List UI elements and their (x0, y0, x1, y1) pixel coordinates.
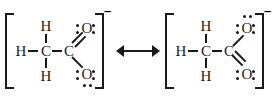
bond-hydrogen-top-carbon (205, 34, 207, 43)
bracket-open-left (5, 13, 14, 89)
lone-pair-dot-o-bottom-left-lower (76, 77, 79, 80)
atom-carbon-methyl: C (199, 44, 213, 59)
lone-pair-dot-o-top-above-left (243, 15, 246, 18)
atom-hydrogen-left: H (174, 44, 188, 59)
lone-pair-dot-o-bottom-left-upper (236, 70, 239, 73)
negative-charge-right: – (264, 6, 271, 16)
lone-pair-dot-o-bottom-right-upper (92, 70, 95, 73)
lone-pair-dot-o-top-right-lower (92, 31, 95, 34)
lone-pair-dot-o-bottom-left-lower (236, 77, 239, 80)
lone-pair-dot-o-top-left-upper (236, 24, 239, 27)
lone-pair-dot-o-top-above-right (249, 15, 252, 18)
lone-pair-dot-o-bottom-right-lower (252, 77, 255, 80)
bond-carbon-oxygen-top (232, 35, 244, 47)
lone-pair-dot-o-bottom-right-lower (92, 77, 95, 80)
bond-hydrogen-left-carbon (188, 50, 198, 52)
resonance-arrow-icon: ↔ (116, 44, 160, 58)
resonance-diagram: – H H H C C O O (0, 0, 276, 102)
bond-hydrogen-top-carbon (45, 34, 47, 43)
lone-pair-dot-o-bottom-under-left (83, 84, 86, 87)
bond-hydrogen-bottom-carbon (205, 58, 207, 68)
bond-carbon-carbon (212, 50, 222, 52)
lone-pair-dot-o-bottom-left-upper (76, 70, 79, 73)
resonance-structure-left: – H H H C C O O (2, 0, 112, 102)
atom-hydrogen-left: H (14, 44, 28, 59)
arrow-shaft (122, 50, 154, 52)
atom-hydrogen-bottom: H (199, 69, 213, 84)
atom-hydrogen-top: H (39, 19, 53, 34)
lone-pair-dot-o-bottom-under-right (89, 84, 92, 87)
atom-hydrogen-top: H (199, 19, 213, 34)
bracket-open-right (165, 13, 174, 89)
lone-pair-dot-o-top-right-upper (252, 24, 255, 27)
lone-pair-dot-o-top-right-upper (92, 24, 95, 27)
negative-charge-left: – (104, 6, 111, 16)
lone-pair-dot-o-top-right-lower (252, 31, 255, 34)
resonance-structure-right: – H H H C C O O (162, 0, 272, 102)
bond-carbon-carbon (52, 50, 62, 52)
bond-carbon-oxygen-bottom (71, 56, 83, 68)
atom-hydrogen-bottom: H (39, 69, 53, 84)
lone-pair-dot-o-top-left-upper (76, 24, 79, 27)
lone-pair-dot-o-top-left-lower (236, 31, 239, 34)
arrow-head-right-icon (152, 45, 160, 57)
atom-carbon-methyl: C (39, 44, 53, 59)
bracket-close-left (95, 13, 104, 89)
lone-pair-dot-o-top-left-lower (76, 31, 79, 34)
bond-hydrogen-left-carbon (28, 50, 38, 52)
bracket-close-right (255, 13, 264, 89)
bond-hydrogen-bottom-carbon (45, 58, 47, 68)
lone-pair-dot-o-bottom-right-upper (252, 70, 255, 73)
